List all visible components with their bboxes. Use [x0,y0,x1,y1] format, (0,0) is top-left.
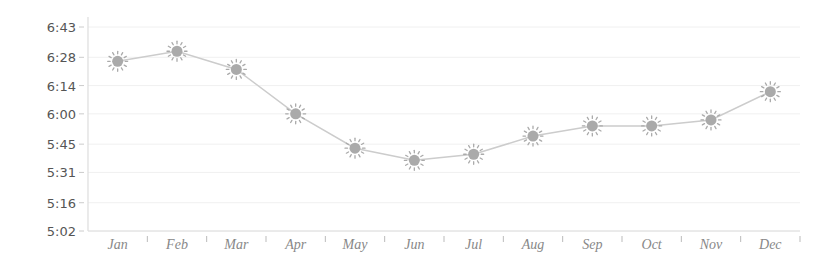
sun-icon: May: 5:43 [345,138,365,158]
sun-icon: Jul: 5:40 [464,144,484,164]
x-tick-label: Jan [108,237,128,252]
y-axis-ticks: 5:025:165:315:456:006:146:286:43 [47,20,84,239]
x-tick-label: Oct [642,237,663,252]
y-tick-label: 5:02 [47,224,76,239]
sun-icon: Sep: 5:54 [582,116,602,136]
x-tick-label: Aug [521,237,545,252]
sun-icon: Feb: 6:31 [167,41,187,61]
sun-icon: Nov: 5:57 [701,110,721,130]
sun-icon: Apr: 6:00 [286,104,306,124]
x-tick-label: Nov [699,237,723,252]
x-tick-label: Apr [284,237,307,252]
y-tick-label: 5:16 [47,196,76,211]
gridlines [88,27,800,231]
x-tick-label: Jul [465,237,482,252]
x-axis-ticks: JanFebMarAprMayJunJulAugSepOctNovDec [108,236,800,252]
sun-icon: Aug: 5:49 [523,126,543,146]
x-tick-label: May [342,237,369,252]
sun-icon: Dec: 6:11 [760,82,780,102]
y-tick-label: 5:31 [47,165,76,180]
x-tick-label: Sep [582,237,602,252]
y-tick-label: 6:14 [47,79,76,94]
sun-icon: Oct: 5:54 [642,116,662,136]
x-tick-label: Mar [223,237,249,252]
sunrise-line-chart: 5:025:165:315:456:006:146:286:43 JanFebM… [0,0,840,279]
y-tick-label: 5:45 [47,137,76,152]
y-tick-label: 6:00 [47,107,76,122]
sun-icon: Jun: 5:37 [404,150,424,170]
data-series: Jan: 6:26Feb: 6:31Mar: 6:22Apr: 6:00May:… [108,41,781,170]
x-tick-label: Jun [404,237,424,252]
y-tick-label: 6:43 [47,20,76,35]
y-tick-label: 6:28 [47,50,76,65]
sun-icon: Jan: 6:26 [108,51,128,71]
sun-icon: Mar: 6:22 [226,59,246,79]
x-tick-label: Dec [758,237,782,252]
x-tick-label: Feb [165,237,188,252]
axes [88,17,800,231]
